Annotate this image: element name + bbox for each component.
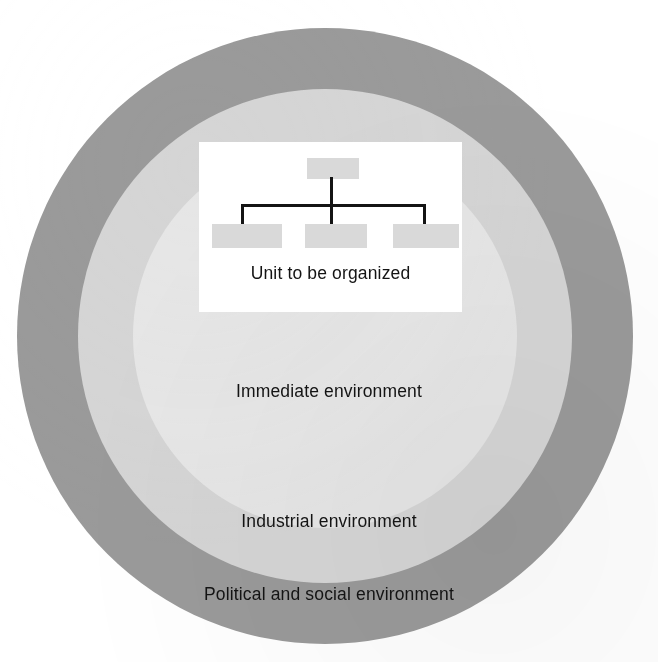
unit-card-caption: Unit to be organized (199, 263, 462, 284)
ring-label-immediate-environment: Immediate environment (0, 381, 658, 402)
org-chart (199, 142, 462, 262)
figure-canvas: Immediate environment Industrial environ… (0, 0, 658, 662)
figure-top-caption (0, 0, 658, 5)
org-node-right (393, 224, 459, 248)
unit-card: Unit to be organized (199, 142, 462, 312)
org-node-left (212, 224, 282, 248)
org-node-center (305, 224, 367, 248)
org-node-top (307, 158, 359, 179)
ring-label-political-and-social-environment: Political and social environment (0, 584, 658, 605)
org-connector-horizontal-bar (241, 204, 426, 207)
ring-label-industrial-environment: Industrial environment (0, 511, 658, 532)
